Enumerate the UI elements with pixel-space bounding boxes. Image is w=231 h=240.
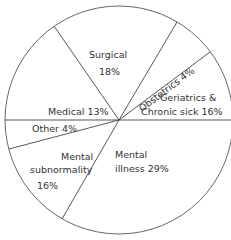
label-other: Other 4%	[32, 123, 77, 134]
label-mental-illness-pct: illness 29%	[115, 163, 169, 174]
label-subnormality-pct: 16%	[37, 180, 58, 191]
label-medical: Medical 13%	[48, 106, 109, 117]
label-surgical-pct: 18%	[99, 66, 120, 77]
label-mental-illness: Mental	[115, 149, 147, 160]
label-chronic-sick: Chronic sick 16%	[141, 106, 223, 117]
pie-chart: Surgical 18% Obstetrics 4% Geriatrics & …	[0, 0, 231, 240]
label-surgical: Surgical	[89, 49, 127, 60]
label-geriatrics: Geriatrics &	[160, 92, 217, 103]
label-subnormality-1: Mental	[61, 151, 93, 162]
label-subnormality-2: subnormality	[30, 164, 93, 175]
